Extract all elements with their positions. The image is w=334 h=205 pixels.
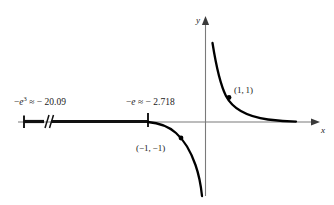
curve-quadrant-1 bbox=[213, 43, 297, 122]
x-axis-arrow-icon bbox=[311, 118, 320, 125]
point-label-q1: (1, 1) bbox=[234, 86, 253, 95]
tick-label-neg-e-cubed: −e3 ≈ − 20.09 bbox=[14, 98, 66, 108]
point-marker-q3 bbox=[179, 136, 184, 141]
tick-label-neg-e: −e ≈ − 2.718 bbox=[126, 98, 175, 108]
graph-figure: y x −e3 ≈ − 20.09 −e ≈ − 2.718 (1, 1) (−… bbox=[0, 0, 334, 205]
tick-label-neg-e-cubed-suffix: ≈ − 20.09 bbox=[27, 97, 66, 107]
y-axis-label: y bbox=[196, 16, 200, 25]
tick-label-neg-e-suffix: ≈ − 2.718 bbox=[136, 97, 175, 107]
x-axis-label: x bbox=[321, 126, 325, 135]
point-label-q3: (−1, −1) bbox=[136, 144, 165, 153]
point-marker-q1 bbox=[227, 95, 232, 100]
y-axis-arrow-icon bbox=[202, 16, 209, 25]
curve-quadrant-3 bbox=[148, 122, 202, 196]
